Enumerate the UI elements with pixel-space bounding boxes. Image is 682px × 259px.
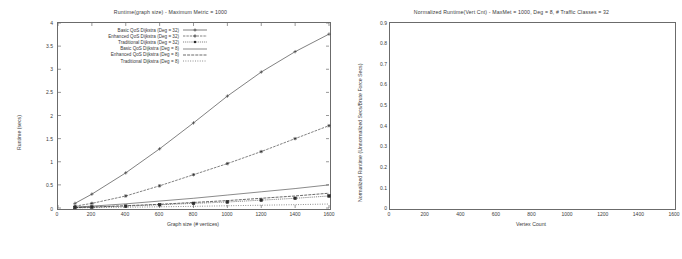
- plot-lines-right: [341, 0, 682, 259]
- chart-panel-runtime-graph-size: Runtime(graph size) - Maximum Metric = 1…: [0, 0, 341, 259]
- legend-label: Basic QoS Dijkstra (Deg = 32): [69, 28, 182, 33]
- legend-label: Traditional Dijkstra (Deg = 8): [69, 59, 182, 64]
- legend-key-basic-qos-deg32: [182, 27, 208, 33]
- legend-item: Traditional Dijkstra (Deg = 8): [64, 58, 208, 64]
- legend-key-enhanced-qos-deg8: [182, 52, 208, 58]
- legend-label: Enhanced QoS Dijkstra (Deg = 8): [69, 52, 182, 57]
- figure-two-line-charts: Runtime(graph size) - Maximum Metric = 1…: [0, 0, 682, 259]
- legend-item: Basic QoS Dijkstra (Deg = 8): [64, 46, 208, 52]
- legend-item: Enhanced QoS Dijkstra (Deg = 8): [64, 52, 208, 58]
- chart-panel-normalized-runtime: Normalized Runtime(Vert Cnt) - MaxMet = …: [341, 0, 682, 259]
- legend-label: Basic QoS Dijkstra (Deg = 8): [69, 46, 182, 51]
- legend-key-basic-qos-deg8: [182, 46, 208, 52]
- legend-label: Traditional Dijkstra (Deg = 32): [69, 40, 182, 45]
- legend-key-enhanced-qos-deg32: [182, 33, 208, 39]
- legend-key-traditional-deg8: [182, 58, 208, 64]
- legend-key-traditional-deg32: [182, 39, 208, 45]
- legend-item: Enhanced QoS Dijkstra (Deg = 32): [64, 33, 208, 39]
- legend-label: Enhanced QoS Dijkstra (Deg = 32): [69, 34, 182, 39]
- legend-item: Traditional Dijkstra (Deg = 32): [64, 39, 208, 45]
- legend-item: Basic QoS Dijkstra (Deg = 32): [64, 27, 208, 33]
- legend-left: Basic QoS Dijkstra (Deg = 32) Enhanced Q…: [64, 27, 208, 64]
